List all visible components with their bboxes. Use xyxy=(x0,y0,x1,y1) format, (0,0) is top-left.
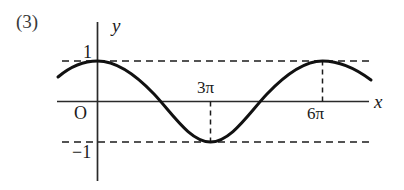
y-axis-label: y xyxy=(112,16,120,35)
origin-label: O xyxy=(74,104,87,122)
x-axis-label: x xyxy=(374,92,382,111)
x-tick-label-3pi: 3π xyxy=(197,79,214,96)
figure-container: (3) y x O 1 −1 3π 6π xyxy=(0,0,404,190)
y-tick-label-minus-1: −1 xyxy=(72,143,91,161)
y-tick-label-1: 1 xyxy=(83,43,92,61)
x-tick-label-6pi: 6π xyxy=(307,105,324,122)
item-number-label: (3) xyxy=(16,12,38,31)
